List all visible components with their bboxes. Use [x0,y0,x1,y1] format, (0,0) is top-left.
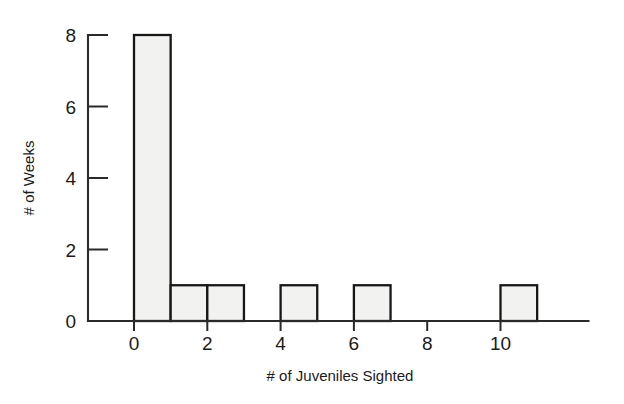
histogram-bar [207,285,244,321]
y-axis-tick-label: 4 [65,168,76,189]
x-axis-tick-label: 10 [490,333,511,354]
x-axis-tick-label: 4 [275,333,286,354]
x-axis-tick-label: 0 [129,333,140,354]
y-axis-ticks [88,35,108,321]
histogram-bar [171,285,208,321]
y-axis-tick-labels: 02468 [65,25,76,332]
chart-canvas: 02468 0246810 # of Juveniles Sighted # o… [0,0,624,404]
y-axis-title: # of Weeks [20,141,37,216]
histogram-bar [354,285,391,321]
x-axis-tick-label: 8 [422,333,433,354]
bars-layer [134,35,537,321]
x-axis-tick-label: 6 [349,333,360,354]
y-axis-tick-label: 6 [65,97,76,118]
x-axis-title: # of Juveniles Sighted [267,367,414,384]
histogram-figure: 02468 0246810 # of Juveniles Sighted # o… [0,0,624,404]
histogram-bar [134,35,171,321]
histogram-bar [281,285,318,321]
x-axis-tick-labels: 0246810 [129,333,511,354]
y-axis-tick-label: 8 [65,25,76,46]
y-axis-tick-label: 0 [65,311,76,332]
histogram-bar [501,285,538,321]
y-axis-tick-label: 2 [65,240,76,261]
x-axis-tick-label: 2 [202,333,213,354]
x-axis-ticks [134,321,501,331]
